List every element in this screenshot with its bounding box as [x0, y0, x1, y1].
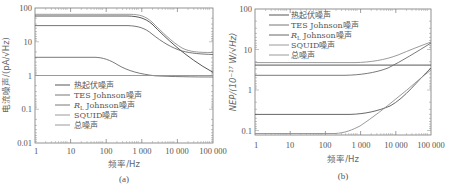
- x-tick-10-b: 10: [286, 140, 295, 150]
- curve-tes-b: [255, 43, 431, 75]
- curve-rl-a: [35, 57, 213, 77]
- legend-label-tes-b: TES Johnson噪声: [291, 20, 359, 30]
- legend-a: 热起伏噪声 TES Johnson噪声 RL Johnson噪声 SQUID噪声…: [55, 80, 142, 130]
- x-tick-10: 10: [67, 146, 76, 156]
- y-axis-label-b: NEP/(10⁻¹⁷ W/√Hz): [228, 33, 238, 112]
- legend-label-squid-b: SQUID噪声: [291, 40, 335, 50]
- legend-label-squid-a: SQUID噪声: [74, 110, 118, 120]
- x-tick-10000-b: 10 000: [384, 140, 407, 150]
- curves-a: [35, 14, 213, 77]
- x-tick-100000-b: 100 000: [417, 140, 445, 150]
- y-tick-0.1: 0.1: [21, 104, 32, 114]
- y-tick-1: 1: [28, 71, 32, 81]
- y-tick-1-b: 1: [248, 85, 252, 95]
- x-tick-10000: 10 000: [165, 146, 188, 156]
- figure: 100 10 1 0.1 0.01 1 10 100 1 000 10 000 …: [0, 0, 450, 192]
- x-tick-labels-b: 1 10 100 1 000 10 000 100 000: [254, 140, 445, 150]
- curve-total-a: [35, 14, 213, 52]
- x-tick-labels-a: 1 10 100 1 000 10 000 100 000: [34, 146, 227, 156]
- curve-thermal-a: [35, 16, 213, 72]
- legend-label-thermal-a: 热起伏噪声: [74, 80, 114, 90]
- y-tick-0.1-b: 0.1: [241, 126, 252, 136]
- x-tick-100: 100: [100, 146, 113, 156]
- panel-a: 100 10 1 0.1 0.01 1 10 100 1 000 10 000 …: [1, 3, 227, 184]
- y-tick-labels-a: 100 10 1 0.1 0.01: [17, 3, 32, 148]
- y-ticks-a: [35, 18, 213, 141]
- y-tick-10-b: 10: [244, 45, 253, 55]
- legend-label-tes-a: TES Johnson噪声: [74, 90, 142, 100]
- y-tick-0.01: 0.01: [17, 138, 32, 148]
- x-tick-100000: 100 000: [199, 146, 227, 156]
- panel-label-a: (a): [119, 174, 129, 184]
- y-tick-10: 10: [24, 37, 33, 47]
- legend-label-total-b: 总噪声: [291, 50, 315, 60]
- x-tick-1-b: 1: [254, 140, 258, 150]
- panel-b: 100 10 1 0.1 1 10 100 1 000 10 000 100 0…: [228, 4, 445, 181]
- x-tick-1000-b: 1 000: [351, 140, 370, 150]
- x-axis-label-a: 频率/Hz: [108, 159, 140, 169]
- y-axis-label-a: 电流噪声/(pA/√Hz): [1, 37, 11, 113]
- legend-label-rl-a: RL Johnson噪声: [73, 100, 135, 111]
- legend-label-thermal-b: 热起伏噪声: [291, 10, 331, 20]
- legend-b: 热起伏噪声 TES Johnson噪声 RL Johnson噪声 SQUID噪声…: [269, 10, 359, 60]
- x-axis-label-b: 频率/Hz: [327, 154, 359, 164]
- curve-squid-b: [255, 70, 431, 134]
- x-tick-1000: 1 000: [132, 146, 151, 156]
- panel-label-b: (b): [338, 171, 349, 181]
- x-tick-100-b: 100: [319, 140, 332, 150]
- legend-label-total-a: 总噪声: [74, 120, 98, 130]
- y-tick-100-b: 100: [239, 4, 252, 14]
- y-tick-labels-b: 100 10 1 0.1: [239, 4, 252, 136]
- x-tick-1: 1: [34, 146, 38, 156]
- y-tick-100: 100: [19, 3, 32, 13]
- legend-label-rl-b: RL Johnson噪声: [290, 30, 352, 41]
- curves-b: [255, 42, 431, 134]
